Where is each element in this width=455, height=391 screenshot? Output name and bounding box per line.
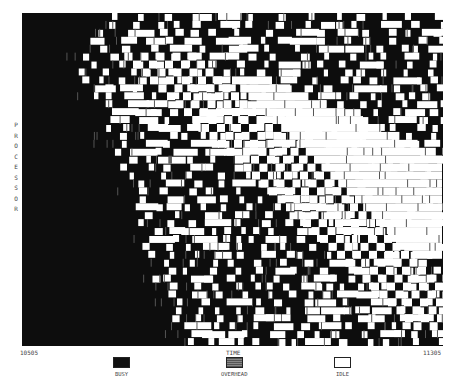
utilization-plot-area bbox=[22, 13, 443, 346]
legend-idle-label: IDLE bbox=[334, 371, 351, 377]
legend-idle: IDLE bbox=[334, 357, 351, 377]
y-axis-label-char: O bbox=[12, 194, 20, 205]
legend-busy: BUSY bbox=[113, 357, 130, 377]
busy-swatch-icon bbox=[113, 357, 130, 368]
overhead-swatch-icon bbox=[226, 357, 243, 368]
y-axis-label-char: E bbox=[12, 162, 20, 173]
y-axis-label-char: S bbox=[12, 173, 20, 184]
legend-busy-label: BUSY bbox=[113, 371, 130, 377]
y-axis-label-char: R bbox=[12, 131, 20, 142]
y-axis-label-char: R bbox=[12, 204, 20, 215]
x-axis-label: TIME bbox=[226, 349, 240, 356]
utilization-raster bbox=[22, 13, 443, 346]
x-axis-end-tick: 11305 bbox=[423, 349, 441, 356]
legend-overhead: OVERHEAD bbox=[221, 357, 248, 377]
y-axis-label-char: O bbox=[12, 141, 20, 152]
idle-swatch-icon bbox=[334, 357, 351, 368]
y-axis-label-char: P bbox=[12, 120, 20, 131]
x-axis-start-tick: 10505 bbox=[20, 349, 38, 356]
y-axis-label-char: C bbox=[12, 152, 20, 163]
y-axis-label: P R O C E S S O R bbox=[12, 120, 20, 215]
legend-overhead-label: OVERHEAD bbox=[221, 371, 248, 377]
y-axis-label-char: S bbox=[12, 183, 20, 194]
